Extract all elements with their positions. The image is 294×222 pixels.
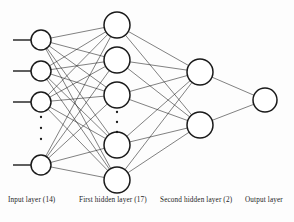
vertical-ellipsis-dot	[116, 121, 118, 123]
vertical-ellipsis-dot	[116, 131, 118, 133]
neuron-hidden2	[187, 59, 213, 85]
connection-edge	[128, 132, 189, 173]
connection-edge	[128, 31, 188, 65]
connection-edges	[46, 28, 254, 178]
connection-edge	[51, 148, 105, 162]
neuron-input	[31, 155, 51, 175]
caption-input-layer: Input layer (14)	[8, 195, 55, 205]
neuron-hidden1	[104, 167, 130, 193]
vertical-ellipsis-dot	[40, 127, 42, 129]
layer-captions: Input layer (14) First hidden layer (17)…	[0, 195, 294, 211]
connection-edge	[48, 34, 108, 95]
caption-first-hidden-layer: First hidden layer (17)	[79, 195, 147, 205]
neuron-input	[31, 30, 51, 50]
neuron-hidden1	[104, 82, 130, 108]
neuron-hidden1	[104, 47, 130, 73]
connection-edge	[51, 28, 104, 39]
vertical-ellipsis-dot	[116, 111, 118, 113]
vertical-ellipsis-dot	[40, 138, 42, 140]
neuron-hidden1	[104, 132, 130, 158]
connection-edge	[51, 43, 105, 57]
connection-edge	[48, 109, 108, 171]
neuron-output	[253, 88, 277, 112]
connection-edge	[49, 46, 106, 88]
connection-edge	[125, 35, 191, 115]
connection-edge	[50, 66, 106, 97]
connection-edge	[48, 78, 108, 136]
connection-edge	[127, 81, 190, 137]
connection-edge	[47, 71, 110, 157]
caption-second-hidden-layer: Second hidden layer (2)	[160, 195, 232, 205]
connection-edge	[51, 167, 104, 178]
connection-edge	[212, 77, 254, 95]
network-graphic	[0, 0, 294, 222]
vertical-ellipsis-dot	[40, 116, 42, 118]
neuron-input	[31, 92, 51, 112]
connection-edge	[125, 82, 192, 169]
neuron-input	[31, 61, 51, 81]
neuron-hidden1	[104, 12, 130, 38]
neuron-hidden2	[187, 112, 213, 138]
connection-edge	[47, 79, 110, 169]
connection-edge	[130, 62, 187, 70]
connection-edge	[130, 128, 188, 142]
caption-output-layer: Output layer	[245, 195, 283, 205]
connection-edge	[47, 48, 110, 134]
connection-edge	[129, 99, 188, 120]
connection-edge	[212, 104, 254, 120]
neural-network-diagram: Input layer (14) First hidden layer (17)…	[0, 0, 294, 222]
connection-edge	[130, 75, 188, 91]
